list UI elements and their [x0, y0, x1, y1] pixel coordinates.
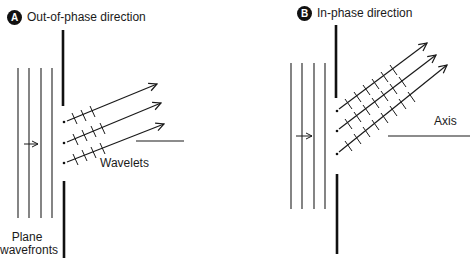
diagram-drawing: [0, 0, 474, 262]
panel-b-barrier: [336, 25, 337, 254]
panel-b-slit-points: [336, 110, 339, 156]
panel-a-slit-points: [63, 121, 66, 165]
panel-a-wavefronts: [18, 68, 52, 218]
panel-a-crest-ticks: [72, 106, 105, 165]
diffraction-figure: A Out-of-phase direction Wavelets Plane …: [0, 0, 474, 262]
panel-a-wavelet-rays: [67, 84, 164, 162]
